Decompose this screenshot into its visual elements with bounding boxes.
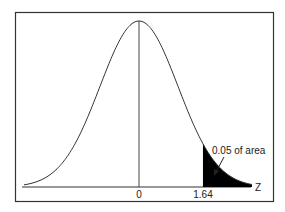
normal-curve-chart: 0.05 of area Z 0 1.64 — [0, 0, 285, 212]
tick-label-critical: 1.64 — [193, 189, 213, 200]
chart-frame — [16, 13, 274, 202]
tick-label-zero: 0 — [136, 189, 142, 200]
normal-curve — [24, 21, 252, 185]
z-axis-label: Z — [255, 182, 261, 193]
annotation-label: 0.05 of area — [212, 145, 266, 156]
